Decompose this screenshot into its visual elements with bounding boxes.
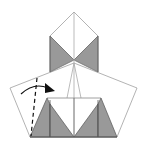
pentagon-flap <box>10 63 137 137</box>
origami-diagram <box>0 0 147 146</box>
diagram-svg <box>0 0 147 146</box>
